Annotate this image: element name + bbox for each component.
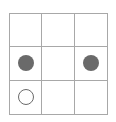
filled-circle-icon — [18, 55, 34, 71]
board-cell-r2-c3[interactable] — [75, 47, 107, 80]
board-cell-r3-c1[interactable] — [10, 81, 42, 114]
board-cell-r3-c2[interactable] — [42, 81, 74, 114]
board-cell-r2-c1[interactable] — [10, 47, 42, 80]
board-cell-r1-c2[interactable] — [42, 14, 74, 47]
game-board — [9, 13, 108, 115]
board-cell-r1-c1[interactable] — [10, 14, 42, 47]
empty-circle-icon — [18, 89, 34, 105]
board-cell-r2-c2[interactable] — [42, 47, 74, 80]
filled-circle-icon — [83, 55, 99, 71]
board-cell-r1-c3[interactable] — [75, 14, 107, 47]
board-cell-r3-c3[interactable] — [75, 81, 107, 114]
